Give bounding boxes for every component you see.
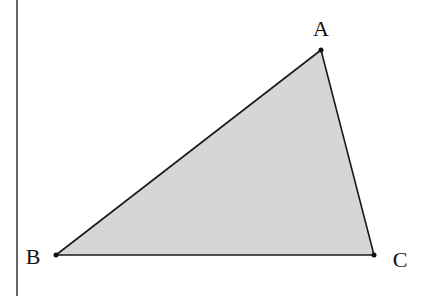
vertex-c-label: C <box>393 247 408 272</box>
triangle-diagram: A B C <box>0 0 433 296</box>
vertex-b-label: B <box>26 244 41 269</box>
triangle-abc <box>56 50 374 255</box>
vertex-c-point <box>372 253 377 258</box>
vertex-a-point <box>319 48 324 53</box>
vertex-b-point <box>54 253 59 258</box>
vertex-a-label: A <box>313 16 329 41</box>
